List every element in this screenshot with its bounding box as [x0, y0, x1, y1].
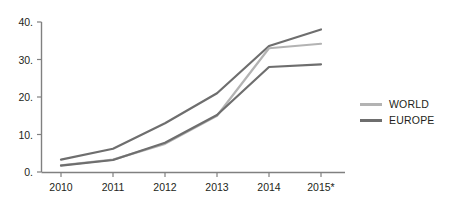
y-tick-label-10: 10.: [18, 129, 33, 141]
legend-item-europe: EUROPE: [360, 112, 456, 128]
data-series-line-world: [61, 44, 321, 166]
y-tick-label-40: 40.: [18, 16, 33, 28]
legend-item-world: WORLD: [360, 96, 456, 112]
data-series-group: [61, 30, 321, 166]
line-chart-figure: 40. 30. 20. 10. 0. 2010 2011 2012 2013 2…: [0, 0, 456, 207]
chart-legend: WORLD EUROPE: [360, 96, 456, 128]
legend-swatch-world-icon: [360, 103, 382, 106]
legend-label-europe: EUROPE: [389, 114, 435, 126]
x-tick-label-2010: 2010: [49, 181, 73, 193]
legend-swatch-europe-icon: [360, 119, 382, 122]
y-tick-label-0: 0.: [24, 166, 33, 178]
y-tick-label-20: 20.: [18, 91, 33, 103]
x-tick-label-2011: 2011: [102, 181, 125, 193]
x-tick-label-2013: 2013: [205, 181, 229, 193]
x-tick-label-2014: 2014: [257, 181, 281, 193]
y-tick-label-30: 30.: [18, 54, 33, 66]
legend-label-world: WORLD: [389, 98, 429, 110]
x-tick-label-2012: 2012: [153, 181, 177, 193]
x-tick-label-2015: 2015*: [307, 181, 334, 193]
data-series-line-0: [61, 30, 321, 160]
